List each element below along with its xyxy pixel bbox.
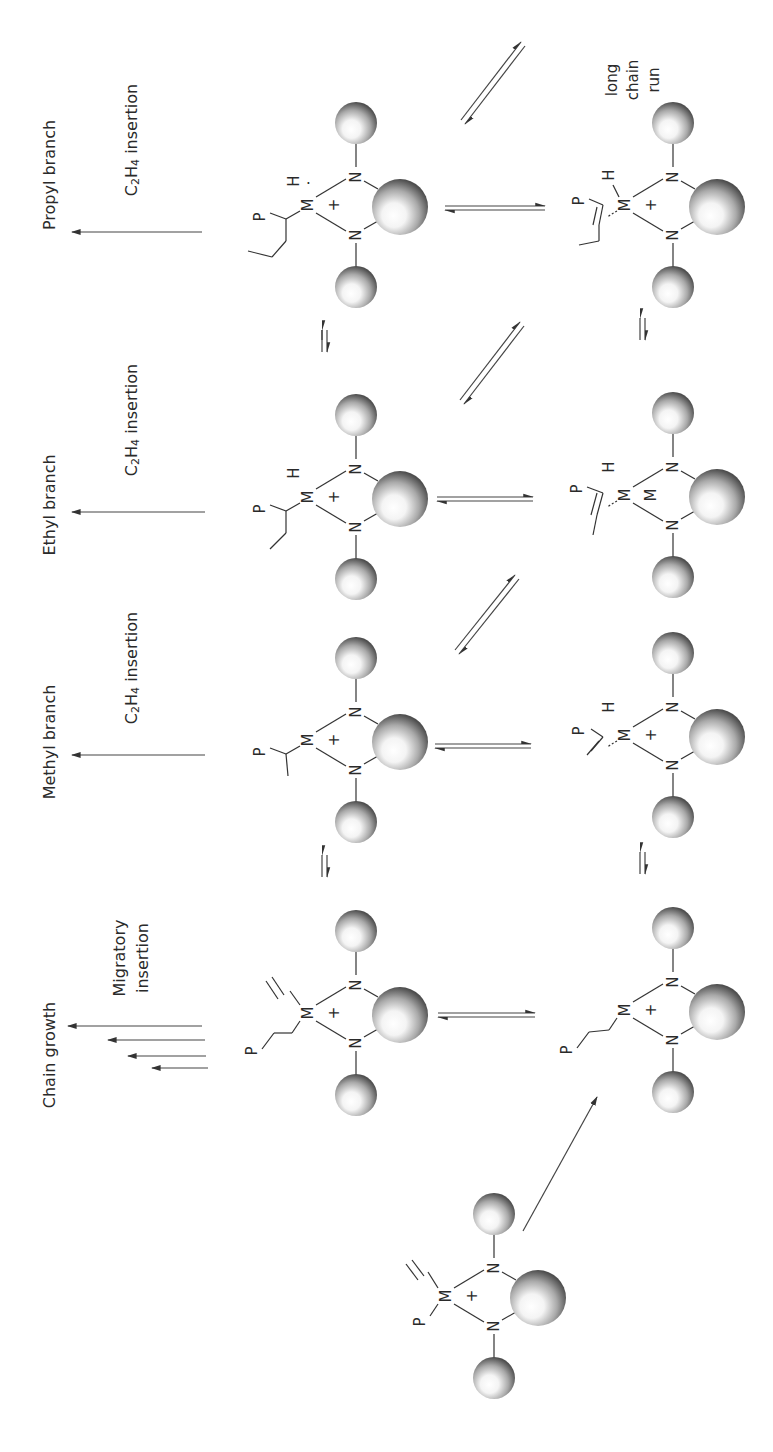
svg-text:Methyl branch: Methyl branch [40, 685, 59, 800]
svg-text:C2H4 insertion: C2H4 insertion [122, 364, 143, 476]
label-long-chain-run: long chain run [603, 60, 663, 101]
label-migratory-insertion: Migratory insertion [110, 920, 152, 997]
svg-text:P: P [568, 484, 586, 493]
svg-text:H: H [600, 169, 618, 180]
svg-text:C2H4 insertion: C2H4 insertion [122, 612, 143, 724]
svg-text:P: P [570, 196, 588, 205]
label-ethyl-branch: Ethyl branch [40, 454, 59, 555]
label-c2h4-insertion-3: C2H4 insertion [122, 612, 143, 724]
species-ethyl-alkyl: H P [251, 394, 429, 600]
svg-text:chain: chain [624, 60, 642, 101]
svg-text:H: H [600, 461, 618, 472]
svg-text:H: H [285, 467, 303, 478]
species-propyl-alkyl: H · P [248, 102, 428, 308]
species-ethyl-olefin-hydride: M H P [568, 392, 746, 598]
svg-text:P: P [251, 504, 269, 513]
arrow-start-to-alkyl [523, 1097, 597, 1231]
svg-text:Chain growth: Chain growth [40, 1002, 59, 1108]
species-start-complex: P [406, 1193, 566, 1399]
svg-text:run: run [645, 67, 663, 92]
svg-text:C2H4 insertion: C2H4 insertion [122, 84, 143, 196]
arrows-chain-growth [68, 1026, 208, 1068]
svg-text:Ethyl branch: Ethyl branch [40, 454, 59, 555]
svg-text:Propyl branch: Propyl branch [40, 120, 59, 230]
label-methyl-branch: Methyl branch [40, 685, 59, 800]
species-olefin-alkyl: P [243, 910, 429, 1116]
svg-text:P: P [411, 1317, 429, 1326]
reaction-scheme: N N M + Propyl branch C2H4 insertion Eth… [0, 0, 773, 1452]
svg-text:M: M [642, 489, 660, 502]
label-c2h4-insertion-1: C2H4 insertion [122, 84, 143, 196]
species-methyl-olefin-hydride: H P [570, 632, 746, 838]
svg-text:P: P [558, 1045, 576, 1054]
svg-text:long: long [603, 64, 621, 96]
svg-text:P: P [243, 1046, 261, 1055]
label-chain-growth: Chain growth [40, 1002, 59, 1108]
equilibrium-arrows-diagonal [455, 42, 525, 654]
svg-text:H: H [285, 175, 303, 186]
svg-text:P: P [570, 726, 588, 735]
svg-text:Migratory: Migratory [110, 920, 129, 997]
svg-text:P: P [251, 212, 269, 221]
species-alkyl: P [558, 907, 746, 1113]
svg-text:P: P [251, 747, 269, 756]
species-methyl-alkyl: P [251, 637, 429, 843]
equilibrium-arrows-horizontal [435, 206, 545, 1017]
svg-text:·: · [306, 175, 311, 193]
svg-text:insertion: insertion [133, 923, 152, 993]
species-propyl-olefin-hydride: H P [570, 102, 746, 308]
label-propyl-branch: Propyl branch [40, 120, 59, 230]
svg-text:H: H [600, 701, 618, 712]
label-c2h4-insertion-2: C2H4 insertion [122, 364, 143, 476]
